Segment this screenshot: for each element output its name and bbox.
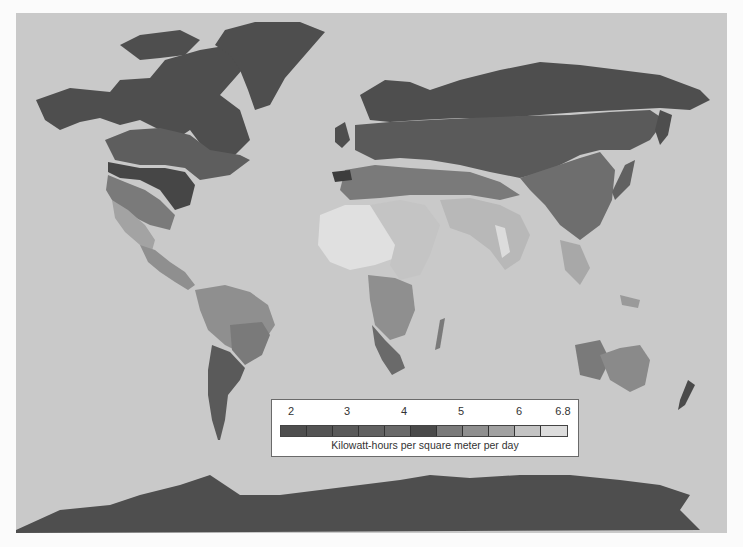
region-japan xyxy=(612,160,635,200)
region-iberia xyxy=(332,170,352,182)
legend-tick-3: 3 xyxy=(344,405,350,417)
region-arabia-india xyxy=(440,198,530,270)
legend-tick-4: 4 xyxy=(401,405,407,417)
legend-swatch xyxy=(437,426,463,436)
legend-swatch xyxy=(333,426,359,436)
legend-swatch xyxy=(411,426,437,436)
region-new-guinea xyxy=(620,295,640,308)
region-south-america-south xyxy=(208,345,245,440)
legend-caption: Kilowatt-hours per square meter per day xyxy=(272,439,578,451)
legend-swatch xyxy=(307,426,333,436)
legend-tick-6: 6 xyxy=(516,405,522,417)
legend-swatch xyxy=(359,426,385,436)
legend-swatch xyxy=(541,426,567,436)
legend-swatch xyxy=(281,426,307,436)
legend-tick-2: 2 xyxy=(288,405,294,417)
legend: 2 3 4 5 6 6.8 Kilowatt-hours per square … xyxy=(271,399,579,457)
region-new-zealand xyxy=(678,380,695,410)
region-scandinavia-north-russia xyxy=(360,62,710,122)
region-southeast-asia xyxy=(560,240,590,285)
region-british-isles xyxy=(335,122,350,148)
legend-swatch xyxy=(515,426,541,436)
legend-swatch xyxy=(385,426,411,436)
region-mexico-central-america xyxy=(140,245,195,290)
region-australia-east xyxy=(600,345,650,392)
legend-swatch xyxy=(489,426,515,436)
legend-color-scale xyxy=(280,425,568,437)
legend-tick-5: 5 xyxy=(458,405,464,417)
region-madagascar xyxy=(435,318,445,350)
region-antarctica xyxy=(16,475,700,533)
legend-swatch xyxy=(463,426,489,436)
legend-tick-6-8: 6.8 xyxy=(555,405,570,417)
